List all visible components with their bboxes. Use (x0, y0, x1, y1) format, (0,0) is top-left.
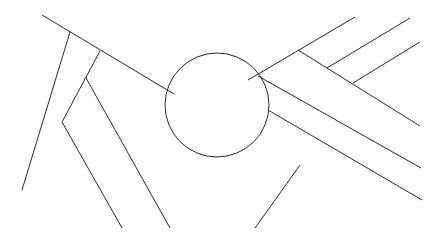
on-freeways-line (327, 18, 410, 68)
vision-blurred-line (42, 15, 174, 94)
judgment-impaired-line (248, 17, 355, 80)
stop-signs-line-hidden (254, 137, 262, 228)
emergency-line-hidden (296, 134, 309, 230)
traffic-lights-line (22, 32, 70, 190)
center-circle (165, 53, 269, 157)
emergency-line-aux (305, 134, 309, 228)
peripheral-vision-line (62, 51, 100, 122)
stop-signs-line (255, 165, 300, 228)
swerve-line (258, 76, 421, 168)
school-zones-line (353, 42, 420, 83)
diagram-lines (0, 0, 439, 250)
emergency-line-lower (302, 180, 334, 230)
mind-map-diagram (0, 0, 439, 250)
approaching-cars-line (62, 122, 122, 228)
crosswalks-line (86, 78, 170, 228)
go-too-fast-line (298, 50, 420, 126)
